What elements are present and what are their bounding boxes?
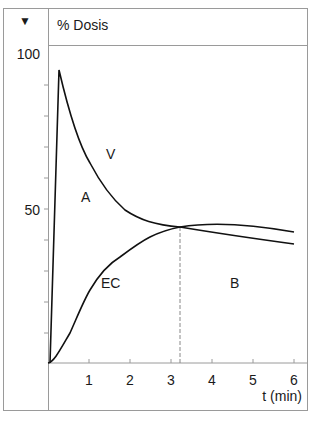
- plot-area: [0, 0, 316, 422]
- curve-ec: [48, 224, 294, 363]
- curve-v: [50, 70, 294, 363]
- x-ticks: [89, 359, 294, 363]
- y-ticks: [44, 85, 48, 333]
